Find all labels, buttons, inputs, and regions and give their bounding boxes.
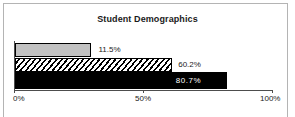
x-tick-mark-0: [14, 90, 15, 93]
bar-series-1[interactable]: [15, 43, 91, 57]
bar-series-2[interactable]: [15, 58, 172, 72]
plot-area: 11.5% 60.2% 80.7% 0% 50% 100%: [15, 41, 272, 90]
x-tick-label-1: 50%: [135, 95, 151, 103]
bar-row: 11.5%: [15, 43, 272, 57]
bar-label-series-2: 60.2%: [178, 61, 201, 69]
bar-label-series-1: 11.5%: [99, 46, 121, 54]
bar-row: 60.2%: [15, 58, 272, 72]
chart-container: Student Demographics 11.5% 60.2% 80.7% 0…: [0, 0, 295, 117]
bar-label-series-3: 80.7%: [176, 77, 202, 85]
x-tick-label-0: 0%: [13, 95, 25, 103]
bar-row: 80.7%: [15, 72, 272, 89]
x-tick-label-2: 100%: [260, 95, 280, 103]
x-tick-mark-1: [143, 90, 144, 93]
x-tick-mark-2: [272, 90, 273, 93]
chart-title: Student Demographics: [0, 14, 295, 24]
